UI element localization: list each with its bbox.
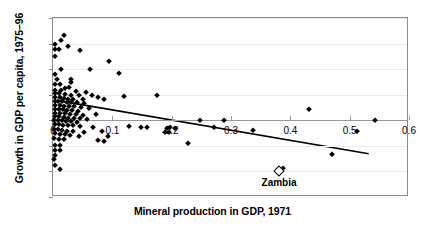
trendline-svg xyxy=(53,18,409,197)
x-tick-mark xyxy=(112,116,113,120)
gridline xyxy=(53,95,407,96)
y-tick-mark xyxy=(49,18,53,19)
x-tick-mark xyxy=(231,116,232,120)
x-tick-label: 0.4 xyxy=(283,125,297,136)
zero-line xyxy=(53,120,407,121)
y-tick-mark xyxy=(49,69,53,70)
gridline xyxy=(53,146,407,147)
x-tick-mark xyxy=(409,116,410,120)
x-tick-label: 0.3 xyxy=(224,125,238,136)
y-axis-title: Growth in GDP per capita, 1975–96 xyxy=(13,3,25,193)
y-tick-mark xyxy=(49,146,53,147)
plot-area: Zambia -6-4-20246800.10.20.30.40.50.6 xyxy=(52,17,408,196)
x-tick-mark xyxy=(172,116,173,120)
gridline xyxy=(53,44,407,45)
gridline xyxy=(53,69,407,70)
y-tick-mark xyxy=(49,171,53,172)
gridline xyxy=(53,171,407,172)
scatter-chart-figure: Growth in GDP per capita, 1975–96 Zambia… xyxy=(0,0,425,229)
x-tick-label: 0.6 xyxy=(402,125,416,136)
zambia-label: Zambia xyxy=(262,177,297,188)
x-axis-title: Mineral production in GDP, 1971 xyxy=(0,205,425,217)
x-tick-mark xyxy=(350,116,351,120)
gridline xyxy=(53,18,407,19)
y-tick-mark xyxy=(49,197,53,198)
x-tick-mark xyxy=(290,116,291,120)
